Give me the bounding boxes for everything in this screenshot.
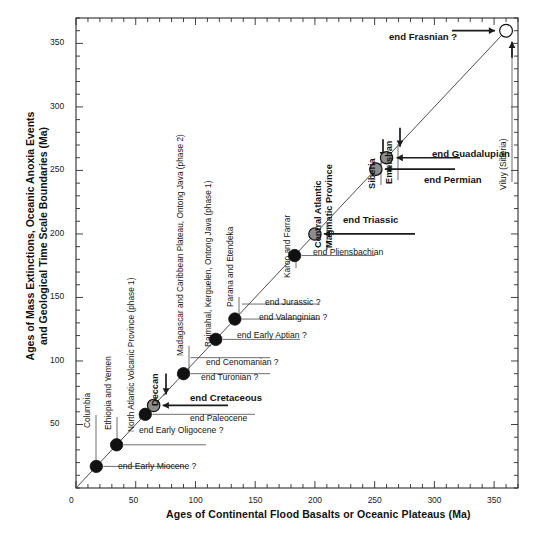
label-end-jurassic: end Jurassic ?	[265, 297, 320, 307]
x-tick-label: 0	[69, 495, 74, 505]
data-point	[229, 313, 241, 325]
label-siberia: Siberia	[367, 158, 377, 189]
x-tick-label: 300	[427, 495, 441, 505]
label-karoo: Karoo and Farrar	[282, 215, 292, 278]
label-end-permian: end Permian	[424, 174, 482, 185]
label-parana: Parana and Etendeka	[225, 227, 235, 307]
label-rajmahal: Rajmahal, Kerguelen, Ontong Java (phase …	[203, 181, 213, 348]
label-viluy: Viluy (Siberia)	[498, 139, 508, 191]
label-end-guadalupian: end Guadalupian	[432, 148, 510, 159]
y-tick-label: 350	[50, 37, 64, 47]
y-tick-label: 100	[50, 355, 64, 365]
y-tick-label: 150	[50, 291, 64, 301]
label-end-paleocene: end Paleocene	[190, 413, 247, 423]
x-tick-label: 150	[248, 495, 262, 505]
label-camp-line2: Magmatic Province	[324, 164, 334, 248]
x-tick-label: 250	[368, 495, 382, 505]
data-point	[177, 367, 189, 379]
data-point	[90, 460, 102, 472]
label-ethiopia: Ethiopia and Yemen	[103, 356, 113, 430]
y-tick-label: 50	[50, 418, 59, 428]
y-tick-label: 250	[50, 164, 64, 174]
label-columbia: Columbia	[82, 393, 92, 428]
label-north-atlantic: North Atlantic Volcanic Province (phase …	[126, 278, 136, 433]
label-end-early-miocene: end Early Miocene ?	[118, 461, 196, 471]
x-tick-label: 350	[487, 495, 501, 505]
label-end-valanginian: end Valanginian ?	[259, 312, 327, 322]
x-tick-label: 100	[188, 495, 202, 505]
label-madagascar: Madagascar and Caribbean Plateau, Ontong…	[175, 134, 185, 356]
y-tick-label: 300	[50, 101, 64, 111]
y-axis-title-line2: and Geological Time Scale Boundaries (Ma…	[37, 96, 50, 376]
label-end-turonian: end Turonian ?	[201, 372, 258, 382]
y-axis-title-line1: Ages of Mass Extinctions, Oceanic Anoxia…	[24, 96, 37, 376]
label-end-cretaceous: end Cretaceous	[190, 392, 262, 403]
label-end-early-aptian: end Early Aptian ?	[237, 330, 307, 340]
data-point	[110, 439, 122, 451]
label-end-cenomanian: end Cenomanian ?	[206, 357, 279, 367]
label-deccan: Deccan	[150, 373, 160, 406]
data-point	[500, 24, 513, 37]
x-axis-title: Ages of Continental Flood Basalts or Oce…	[166, 508, 471, 520]
label-camp-line1: Central Atlantic	[313, 180, 323, 248]
x-tick-label: 50	[129, 495, 138, 505]
label-emeishan: Emeishan	[384, 141, 394, 184]
label-end-early-oligocene: end Early Oligocene ?	[139, 425, 224, 435]
y-tick-label: 200	[50, 228, 64, 238]
label-end-pliensbachian: end Pliensbachian	[313, 247, 383, 257]
label-end-triassic: end Triassic	[343, 214, 398, 225]
label-end-frasnian: end Frasnian ?	[389, 31, 457, 42]
scatter-chart	[0, 0, 545, 536]
x-tick-label: 200	[308, 495, 322, 505]
